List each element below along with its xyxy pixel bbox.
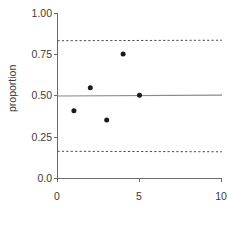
- x-tick-label-0: 0: [54, 190, 60, 202]
- y-tick-label-1-00: 1.00: [32, 7, 53, 19]
- data-point: [121, 51, 126, 56]
- y-tick-label-0-75: 0.75: [32, 48, 53, 60]
- chart-canvas: proportion 1.00 0.75 0.50 0.25 0.0 0 5 1…: [0, 0, 231, 228]
- y-axis-title: proportion: [6, 65, 18, 112]
- data-point: [88, 85, 93, 90]
- data-layer: [58, 40, 223, 152]
- y-tick-label-0-0: 0.0: [37, 172, 52, 184]
- data-point: [137, 93, 142, 98]
- x-tick-label-5: 5: [136, 190, 142, 202]
- data-point: [104, 117, 109, 122]
- y-tick-label-0-25: 0.25: [32, 131, 53, 143]
- x-tick-label-10: 10: [215, 190, 227, 202]
- control-chart-figure: proportion 1.00 0.75 0.50 0.25 0.0 0 5 1…: [0, 0, 231, 228]
- y-tick-label-0-50: 0.50: [32, 89, 53, 101]
- data-point: [71, 108, 76, 113]
